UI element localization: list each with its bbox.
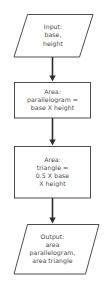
node-process-parallelogram-shape[interactable]: [15, 83, 91, 119]
connector-input-to-process1: [49, 57, 55, 82]
connector-process2-to-output: [49, 198, 55, 224]
node-input-parallelogram-shape[interactable]: [14, 15, 93, 58]
connector-process1-to-process2: [49, 118, 55, 146]
arrowhead-down-icon: [49, 76, 55, 82]
node-output-parallelogram-shape[interactable]: [14, 225, 99, 275]
arrowhead-down-icon: [49, 218, 55, 224]
node-process-triangle-shape[interactable]: [15, 147, 91, 199]
flowchart-canvas: [0, 0, 105, 288]
arrowhead-down-icon: [49, 140, 55, 146]
flowchart-diagram: Input: base, height Area: parallelogram …: [0, 0, 105, 288]
